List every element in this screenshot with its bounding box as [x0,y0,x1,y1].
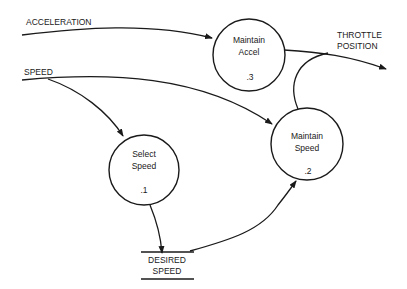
flow-label-speed: SPEED [24,67,53,77]
flow-select-speed-to-desired-speed [150,205,162,253]
process-select-speed: Select Speed .1 [109,135,179,205]
flow-label-throttle-line1: THROTTLE [337,30,382,40]
process-name-line1: Maintain [291,131,323,141]
process-maintain-speed: Maintain Speed .2 [271,108,343,180]
data-store-desired-speed: DESIRED SPEED [141,252,194,279]
flow-acceleration-to-maintain-accel [22,28,212,38]
process-number: .2 [304,166,311,176]
process-name-line1: Select [132,149,156,159]
data-flow-diagram: ACCELERATION SPEED THROTTLE POSITION Mai… [0,0,407,289]
process-name-line2: Speed [132,161,157,171]
flow-maintain-accel-to-throttle [284,50,386,69]
flow-speed-to-select-speed [48,79,123,136]
data-store-label-line1: DESIRED [148,255,186,265]
flow-label-acceleration: ACCELERATION [26,17,92,27]
flow-maintain-speed-to-throttle [294,53,328,109]
process-number: .3 [246,72,253,82]
process-maintain-accel: Maintain Accel .3 [213,19,285,91]
data-store-label-line2: SPEED [153,266,182,276]
flow-desired-speed-to-maintain-speed [190,181,296,251]
process-name-line1: Maintain [233,35,265,45]
process-name-line2: Speed [295,143,320,153]
flow-label-throttle-line2: POSITION [337,41,378,51]
process-name-line2: Accel [239,47,260,57]
process-number: .1 [140,185,147,195]
